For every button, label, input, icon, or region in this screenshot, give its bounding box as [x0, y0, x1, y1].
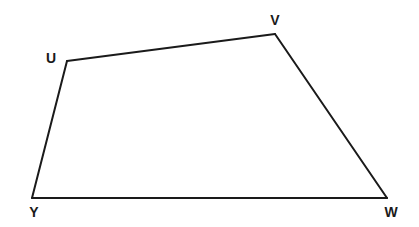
edge-uv — [67, 34, 275, 61]
vertex-label-v: V — [270, 12, 280, 28]
quadrilateral-diagram: U V W Y — [0, 0, 419, 227]
vertex-label-w: W — [384, 204, 398, 220]
edge-vw — [275, 34, 387, 198]
edge-yu — [32, 61, 67, 198]
vertex-label-u: U — [46, 50, 56, 66]
vertex-label-y: Y — [29, 204, 39, 220]
edges — [32, 34, 387, 198]
